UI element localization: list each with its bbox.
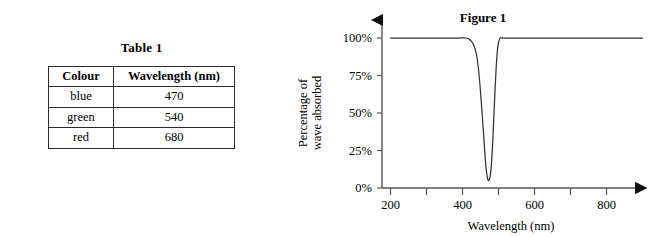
y-tick-label-25: 25% xyxy=(349,144,372,158)
table-header-row: Colour Wavelength (nm) xyxy=(49,67,235,87)
wavelength-table: Colour Wavelength (nm) blue 470 green 54… xyxy=(48,66,235,149)
y-tick-label-100: 100% xyxy=(343,31,372,45)
table-row: blue 470 xyxy=(49,87,235,107)
table-header-colour: Colour xyxy=(49,67,114,87)
x-tick-label-400: 400 xyxy=(453,198,472,212)
x-axis-ticks xyxy=(391,188,607,195)
y-axis-title-line-1: Percentage of xyxy=(296,78,310,147)
table-row: red 680 xyxy=(49,128,235,148)
cell-wavelength: 540 xyxy=(114,107,235,127)
y-axis-ticks xyxy=(377,38,382,188)
cell-wavelength: 470 xyxy=(114,87,235,107)
cell-colour: green xyxy=(49,107,114,127)
x-tick-label-200: 200 xyxy=(381,198,400,212)
absorption-chart: 0% 25% 50% 75% 100% 200 400 600 800 Wave… xyxy=(283,0,663,237)
y-tick-label-75: 75% xyxy=(349,69,372,83)
cell-colour: red xyxy=(49,128,114,148)
y-tick-label-50: 50% xyxy=(349,106,372,120)
figure-panel: Figure 1 0% 25% 50% 75% 100% xyxy=(283,0,663,237)
absorption-curve xyxy=(391,38,643,181)
table-panel: Table 1 Colour Wavelength (nm) blue 470 … xyxy=(0,0,283,237)
x-tick-label-800: 800 xyxy=(597,198,616,212)
table-title: Table 1 xyxy=(0,40,283,56)
cell-wavelength: 680 xyxy=(114,128,235,148)
y-tick-label-0: 0% xyxy=(355,181,372,195)
table-row: green 540 xyxy=(49,107,235,127)
x-axis-title: Wavelength (nm) xyxy=(468,219,555,233)
cell-colour: blue xyxy=(49,87,114,107)
x-tick-label-600: 600 xyxy=(525,198,544,212)
table-header-wavelength: Wavelength (nm) xyxy=(114,67,235,87)
y-axis-title-line-2: wave absorbed xyxy=(310,75,324,150)
